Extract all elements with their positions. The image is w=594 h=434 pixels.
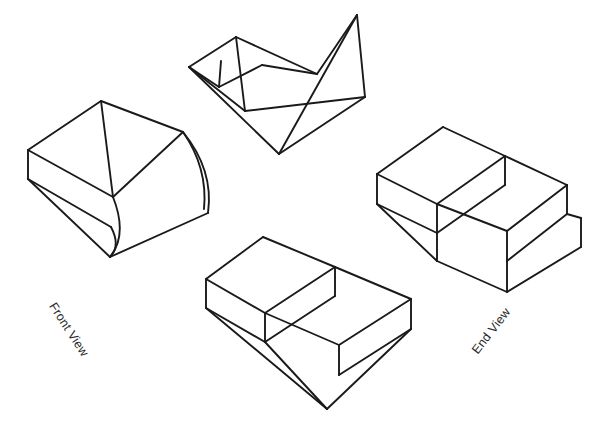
plain-box-top-front-right	[265, 267, 335, 313]
figure-curved-block	[28, 101, 209, 257]
plain-box-inner-floor-left	[206, 308, 265, 342]
notched-block-right-top-back	[505, 156, 567, 185]
figure-plain-box	[206, 237, 411, 409]
vee-wedge-inner-ridge-left	[189, 67, 245, 111]
notched-block-left-top-left	[377, 174, 437, 204]
vee-wedge-back-left-edge	[189, 37, 236, 67]
curved-block-inner-edge-right	[113, 132, 183, 197]
vee-wedge-back-ridge	[236, 37, 317, 74]
notched-block-right-wall-bottom	[507, 214, 567, 261]
vee-wedge-front-right-slope	[279, 15, 357, 154]
notched-block-left-lower-slope	[377, 204, 437, 261]
notched-block-left-wall-bottom	[377, 204, 437, 233]
curved-block-bottom-front-edge	[110, 213, 208, 257]
drawing-page: { "page": { "title": "Isometric Solids D…	[0, 0, 594, 434]
curved-block-top-rim-left	[28, 101, 101, 150]
notched-block-bottom-right-edge	[507, 247, 581, 292]
plain-box-top-front-left	[206, 279, 265, 313]
curved-block-right-inner-curve	[183, 132, 205, 209]
figure-notched-block	[377, 127, 581, 292]
plain-box-bottom-left-edge	[206, 308, 327, 409]
plain-box-top-back-left	[206, 237, 263, 279]
figure-vee-wedge	[189, 15, 365, 154]
notched-block-left-top-back	[377, 127, 443, 174]
vee-wedge-right-vertical	[357, 15, 365, 97]
notched-block-right-corner-join	[567, 214, 581, 218]
plain-box-top-back-right	[263, 237, 335, 267]
curved-block-top-rim-right	[101, 101, 183, 132]
notched-block-right-top-right	[507, 185, 567, 231]
isometric-drawing-canvas	[0, 0, 594, 434]
plain-box-inner-floor-right	[265, 296, 335, 342]
plain-box-right-bottom-edge	[339, 329, 411, 375]
curved-block-left-end-lower	[28, 179, 110, 257]
plain-box-bottom-center-edge	[265, 342, 327, 409]
plain-box-right-top-back	[335, 267, 411, 299]
notched-block-left-top-right	[443, 127, 505, 156]
curved-block-lower-seam	[28, 179, 111, 227]
vee-wedge-groove-left-vertical	[219, 61, 221, 87]
notched-block-front-bottom-edge	[437, 261, 507, 292]
notched-block-left-top-front	[437, 156, 505, 204]
curved-block-inner-edge-back	[101, 101, 113, 197]
